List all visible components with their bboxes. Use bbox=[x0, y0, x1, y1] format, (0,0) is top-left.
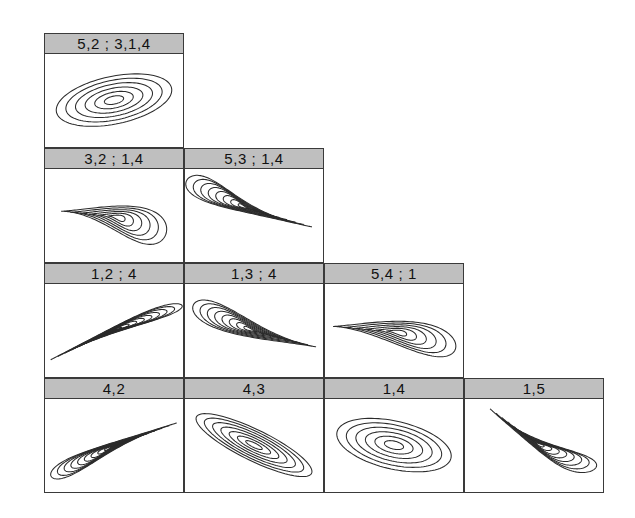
contour-plot-area bbox=[45, 284, 183, 376]
panel-5-4-1[interactable]: 5,4 ; 1 bbox=[324, 263, 464, 378]
contour-plot-area bbox=[185, 284, 323, 376]
panel-header-label: 1,2 ; 4 bbox=[45, 264, 183, 284]
panel-header-label: 1,3 ; 4 bbox=[185, 264, 323, 284]
contour-plot-area bbox=[185, 399, 323, 491]
panel-5-3-1-4[interactable]: 5,3 ; 1,4 bbox=[184, 148, 324, 263]
contour-plot-area bbox=[325, 284, 463, 376]
panel-1-3-4[interactable]: 1,3 ; 4 bbox=[184, 263, 324, 378]
contour-plot-area bbox=[325, 399, 463, 491]
panel-header-label: 4,2 bbox=[45, 379, 183, 399]
panel-3-2-1-4[interactable]: 3,2 ; 1,4 bbox=[44, 148, 184, 263]
panel-header-label: 1,5 bbox=[465, 379, 603, 399]
panel-1-5[interactable]: 1,5 bbox=[464, 378, 604, 493]
panel-header-label: 1,4 bbox=[325, 379, 463, 399]
panel-header-label: 5,2 ; 3,1,4 bbox=[45, 34, 183, 54]
panel-header-label: 3,2 ; 1,4 bbox=[45, 149, 183, 169]
contour-plot-area bbox=[185, 169, 323, 261]
panel-header-label: 4,3 bbox=[185, 379, 323, 399]
contour-plot-area bbox=[45, 169, 183, 261]
contour-plot-area bbox=[45, 399, 183, 491]
panel-1-4[interactable]: 1,4 bbox=[324, 378, 464, 493]
panel-4-3[interactable]: 4,3 bbox=[184, 378, 324, 493]
contour-plot-area bbox=[45, 54, 183, 146]
contour-plot-area bbox=[465, 399, 603, 491]
panel-1-2-4[interactable]: 1,2 ; 4 bbox=[44, 263, 184, 378]
panel-header-label: 5,4 ; 1 bbox=[325, 264, 463, 284]
panel-4-2[interactable]: 4,2 bbox=[44, 378, 184, 493]
panel-5-2-3-1-4[interactable]: 5,2 ; 3,1,4 bbox=[44, 33, 184, 148]
panel-header-label: 5,3 ; 1,4 bbox=[185, 149, 323, 169]
